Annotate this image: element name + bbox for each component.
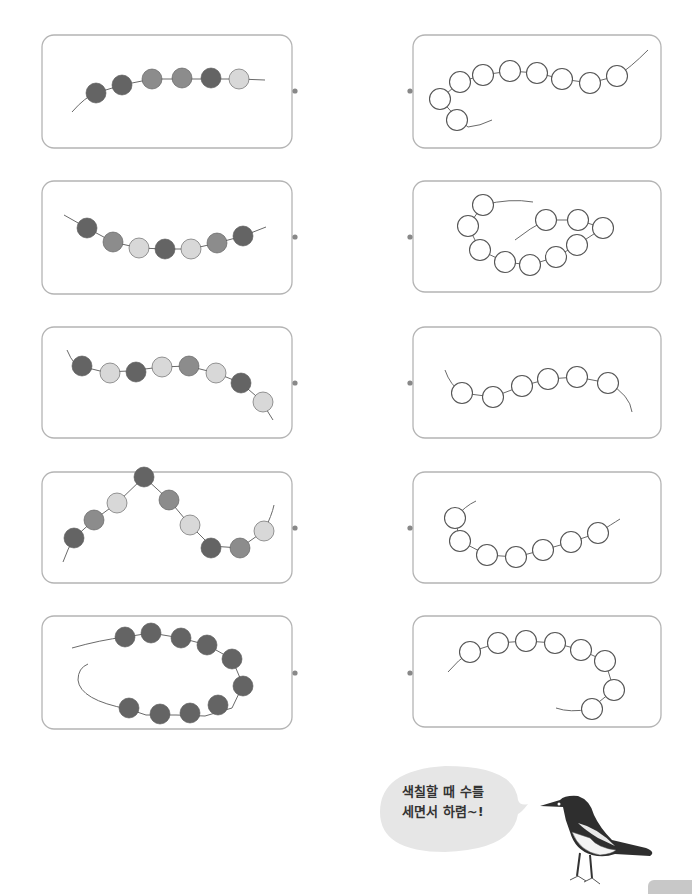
- panel-frame: [413, 181, 661, 292]
- matching-dot[interactable]: [407, 525, 412, 530]
- colored-bead: [253, 392, 273, 412]
- colored-bead: [72, 356, 92, 376]
- empty-bead[interactable]: [477, 545, 498, 566]
- empty-bead[interactable]: [460, 642, 481, 663]
- empty-bead[interactable]: [561, 532, 582, 553]
- colored-bead: [207, 233, 227, 253]
- matching-dot[interactable]: [292, 88, 297, 93]
- panel-frame: [42, 181, 292, 294]
- colored-bead: [64, 528, 84, 548]
- empty-bead[interactable]: [512, 376, 533, 397]
- matching-dot[interactable]: [407, 88, 412, 93]
- colored-bead: [179, 356, 199, 376]
- colored-bead: [233, 676, 253, 696]
- panel-frame: [413, 327, 661, 438]
- matching-dot[interactable]: [407, 234, 412, 239]
- left-panel-4: [42, 467, 298, 583]
- matching-dot[interactable]: [407, 380, 412, 385]
- colored-bead: [86, 83, 106, 103]
- empty-bead[interactable]: [483, 387, 504, 408]
- colored-bead: [254, 521, 274, 541]
- panel-frame: [413, 616, 661, 727]
- colored-bead: [150, 704, 170, 724]
- colored-bead: [180, 703, 200, 723]
- page-number-tab: [648, 880, 692, 894]
- empty-bead[interactable]: [430, 89, 451, 110]
- colored-bead: [171, 628, 191, 648]
- empty-bead[interactable]: [546, 247, 567, 268]
- colored-bead: [107, 493, 127, 513]
- empty-bead[interactable]: [598, 373, 619, 394]
- right-panel-1: [407, 35, 661, 148]
- matching-dot[interactable]: [292, 234, 297, 239]
- empty-bead[interactable]: [506, 547, 527, 568]
- colored-bead: [141, 623, 161, 643]
- colored-bead: [208, 695, 228, 715]
- empty-bead[interactable]: [473, 65, 494, 86]
- matching-dot[interactable]: [292, 380, 297, 385]
- magpie-bird-icon: [540, 796, 652, 884]
- left-panel-1: [42, 35, 298, 148]
- empty-bead[interactable]: [593, 218, 614, 239]
- empty-bead[interactable]: [552, 69, 573, 90]
- colored-bead: [103, 232, 123, 252]
- empty-bead[interactable]: [520, 255, 541, 276]
- matching-dot[interactable]: [292, 525, 297, 530]
- empty-bead[interactable]: [588, 523, 609, 544]
- colored-bead: [159, 490, 179, 510]
- colored-bead: [119, 698, 139, 718]
- empty-bead[interactable]: [604, 680, 625, 701]
- left-panel-5: [42, 616, 298, 729]
- empty-bead[interactable]: [533, 540, 554, 561]
- colored-bead: [180, 515, 200, 535]
- colored-bead: [181, 239, 201, 259]
- right-panel-2: [407, 181, 661, 292]
- right-panel-3: [407, 327, 661, 438]
- matching-dot[interactable]: [407, 670, 412, 675]
- empty-bead[interactable]: [567, 367, 588, 388]
- colored-bead: [222, 649, 242, 669]
- colored-bead: [201, 68, 221, 88]
- matching-dot[interactable]: [292, 670, 297, 675]
- empty-bead[interactable]: [452, 383, 473, 404]
- empty-bead[interactable]: [447, 110, 468, 131]
- empty-bead[interactable]: [582, 699, 603, 720]
- empty-bead[interactable]: [450, 72, 471, 93]
- empty-bead[interactable]: [567, 235, 588, 256]
- empty-bead[interactable]: [495, 252, 516, 273]
- colored-bead: [197, 635, 217, 655]
- empty-bead[interactable]: [527, 63, 548, 84]
- empty-bead[interactable]: [571, 640, 592, 661]
- colored-bead: [77, 218, 97, 238]
- colored-bead: [201, 538, 221, 558]
- empty-bead[interactable]: [488, 633, 509, 654]
- colored-bead: [129, 238, 149, 258]
- empty-bead[interactable]: [445, 508, 466, 529]
- empty-bead[interactable]: [500, 61, 521, 82]
- colored-bead: [126, 362, 146, 382]
- colored-bead: [134, 467, 154, 487]
- empty-bead[interactable]: [473, 195, 494, 216]
- empty-bead[interactable]: [470, 240, 491, 261]
- empty-bead[interactable]: [568, 210, 589, 231]
- panel-frame: [42, 35, 292, 148]
- colored-bead: [230, 538, 250, 558]
- empty-bead[interactable]: [580, 73, 601, 94]
- colored-bead: [142, 69, 162, 89]
- empty-bead[interactable]: [458, 216, 479, 237]
- colored-bead: [152, 357, 172, 377]
- empty-bead[interactable]: [538, 369, 559, 390]
- left-panel-3: [42, 327, 298, 438]
- empty-bead[interactable]: [536, 210, 557, 231]
- colored-bead: [172, 68, 192, 88]
- colored-bead: [100, 363, 120, 383]
- colored-bead: [233, 226, 253, 246]
- empty-bead[interactable]: [450, 531, 471, 552]
- panel-frame: [413, 35, 661, 148]
- empty-bead[interactable]: [607, 66, 628, 87]
- empty-bead[interactable]: [516, 631, 537, 652]
- empty-bead[interactable]: [545, 633, 566, 654]
- bead-panels: [42, 35, 661, 729]
- empty-bead[interactable]: [595, 651, 616, 672]
- bubble-line-1: 색칠할 때 수를: [378, 782, 508, 802]
